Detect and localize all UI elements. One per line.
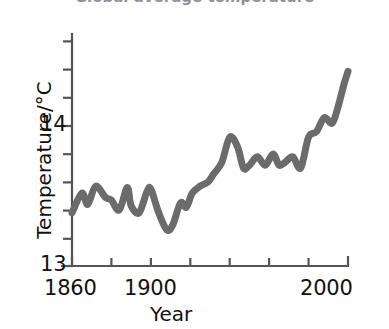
y-axis-title: Temperature/°C <box>32 70 56 250</box>
x-tick-label-2000: 2000 <box>300 276 353 300</box>
x-axis-ticks <box>72 256 348 266</box>
x-axis-title: Year <box>150 302 192 326</box>
y-tick-label-13: 13 <box>40 252 66 276</box>
x-tick-label-1860: 1860 <box>44 276 97 300</box>
y-axis-ticks <box>61 41 72 266</box>
temperature-series-line <box>72 71 348 230</box>
chart-figure: Global average temperature <box>0 0 389 329</box>
x-tick-label-1900: 1900 <box>124 276 177 300</box>
